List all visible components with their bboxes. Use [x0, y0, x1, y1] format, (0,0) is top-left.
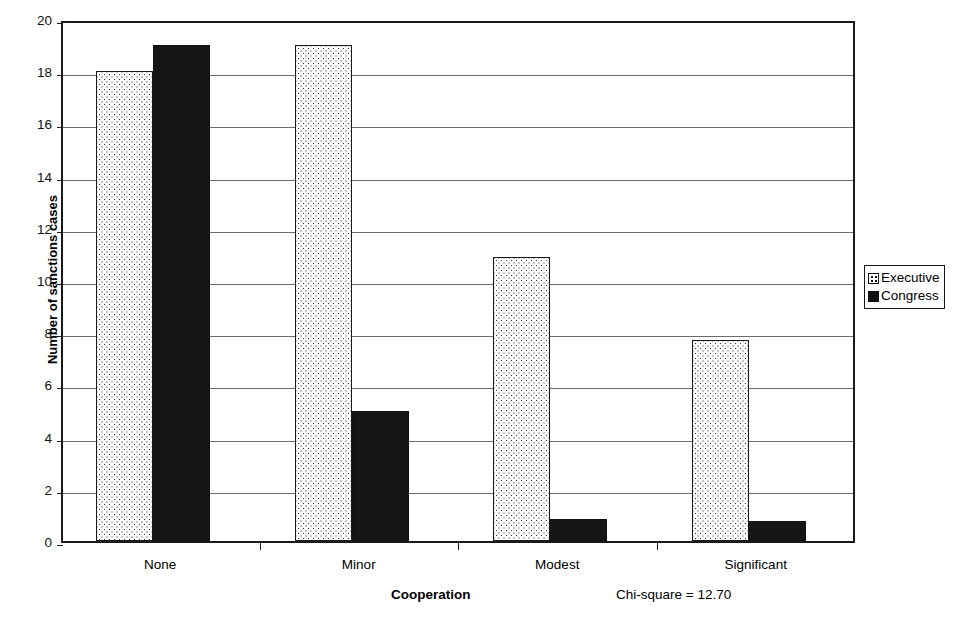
x-axis-tick-label: Significant	[725, 557, 787, 572]
y-axis-tick-label: 0	[8, 536, 52, 550]
y-axis-tick-label: 18	[8, 66, 52, 80]
x-axis-tickmark	[657, 543, 658, 550]
bar-chart: Number of sanctions cases 02468101214161…	[0, 0, 960, 619]
bar-executive-none	[96, 71, 153, 541]
legend-item-congress: Congress	[868, 287, 940, 305]
legend-label-executive: Executive	[881, 271, 940, 285]
y-axis-tick-label: 16	[8, 118, 52, 132]
y-axis-tick-label: 6	[8, 379, 52, 393]
x-axis-tick-label: Modest	[535, 557, 579, 572]
legend: Executive Congress	[864, 265, 945, 309]
bar-congress-none	[153, 45, 210, 541]
bar-executive-minor	[295, 45, 352, 541]
bar-executive-modest	[493, 257, 550, 541]
y-axis-tick-label: 2	[8, 484, 52, 498]
x-axis: NoneMinorModestSignificant Cooperation C…	[61, 543, 855, 619]
y-axis-tick-label: 8	[8, 327, 52, 341]
y-axis-tick-label: 10	[8, 275, 52, 289]
y-axis-tick-label: 12	[8, 223, 52, 237]
y-axis-tick-labels: 02468101214161820	[0, 0, 52, 619]
plot-area	[61, 21, 855, 543]
bars-layer	[63, 23, 853, 541]
legend-item-executive: Executive	[868, 269, 940, 287]
legend-swatch-congress-icon	[868, 291, 879, 302]
x-axis-tickmark	[458, 543, 459, 550]
bar-congress-minor	[352, 411, 409, 542]
x-axis-title: Cooperation	[391, 587, 471, 602]
x-axis-tickmark	[260, 543, 261, 550]
bar-congress-significant	[749, 521, 806, 541]
legend-swatch-executive-icon	[868, 273, 879, 284]
x-axis-tick-label: Minor	[342, 557, 376, 572]
y-axis-tick-label: 14	[8, 171, 52, 185]
x-axis-tick-label: None	[144, 557, 176, 572]
legend-label-congress: Congress	[881, 289, 939, 303]
y-axis-tick-label: 20	[8, 14, 52, 28]
bar-executive-significant	[692, 340, 749, 541]
y-axis-tick-label: 4	[8, 432, 52, 446]
chi-square-annotation: Chi-square = 12.70	[616, 587, 731, 602]
bar-congress-modest	[550, 519, 607, 541]
